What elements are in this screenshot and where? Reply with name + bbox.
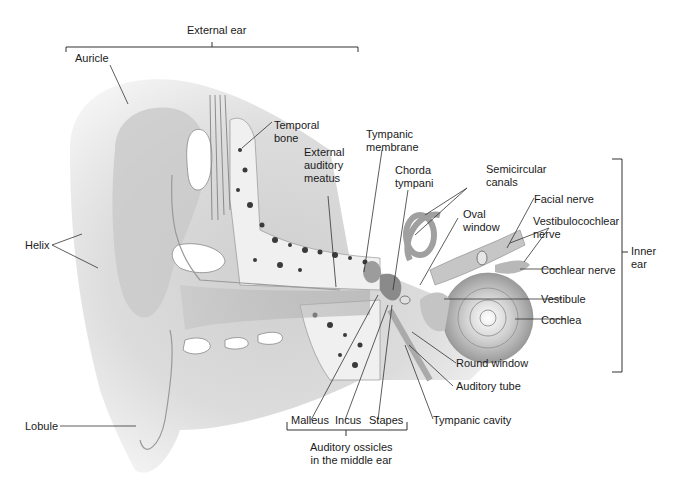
label-oval-window: Oval window bbox=[463, 208, 500, 234]
semicircular-canals-shape bbox=[406, 214, 440, 260]
ear-anatomy-diagram: External ear Auricle Helix Lobule Tempor… bbox=[0, 0, 679, 499]
label-auditory-ossicles: Auditory ossicles in the middle ear bbox=[310, 441, 393, 467]
label-auditory-tube: Auditory tube bbox=[456, 380, 521, 393]
label-round-window: Round window bbox=[456, 357, 528, 370]
label-facial-nerve: Facial nerve bbox=[534, 193, 594, 206]
label-malleus: Malleus bbox=[291, 414, 329, 427]
label-vestibule: Vestibule bbox=[541, 293, 586, 306]
label-external-ear: External ear bbox=[187, 24, 246, 37]
label-lobule: Lobule bbox=[25, 420, 58, 433]
label-chorda-tympani: Chorda tympani bbox=[395, 164, 434, 190]
label-tympanic-membrane: Tympanic membrane bbox=[366, 128, 419, 154]
label-temporal-bone: Temporal bone bbox=[274, 119, 319, 145]
label-tympanic-cavity: Tympanic cavity bbox=[433, 414, 511, 427]
label-stapes: Stapes bbox=[369, 414, 403, 427]
label-cochlear-nerve: Cochlear nerve bbox=[541, 264, 616, 277]
label-semicircular-canals: Semicircular canals bbox=[486, 163, 547, 189]
label-vestibulocochlear-nerve: Vestibulocochlear nerve bbox=[533, 215, 619, 241]
label-auricle: Auricle bbox=[75, 52, 109, 65]
label-external-auditory-meatus: External auditory meatus bbox=[304, 146, 344, 185]
label-incus: Incus bbox=[335, 414, 361, 427]
label-helix: Helix bbox=[25, 239, 49, 252]
label-inner-ear: Inner ear bbox=[631, 245, 656, 271]
label-cochlea: Cochlea bbox=[541, 314, 581, 327]
external-ear-bracket bbox=[66, 47, 358, 52]
